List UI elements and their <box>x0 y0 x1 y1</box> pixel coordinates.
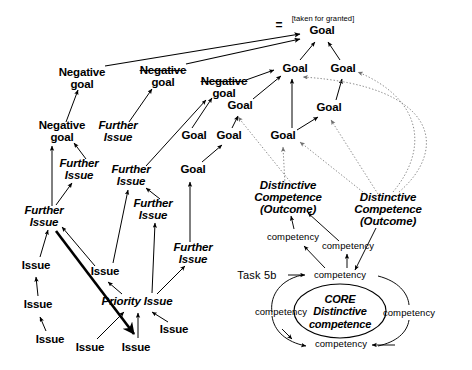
edge-dc1-midupper <box>238 117 292 184</box>
edge-neg2-goaltop <box>186 39 300 64</box>
diagram-canvas: = [taken for granted] Task 5b GoalGoalGo… <box>0 0 472 370</box>
edge-dc2-r1b-curve <box>358 72 415 192</box>
core-loop-right-bot <box>378 320 409 346</box>
edge-dc2-rightmid <box>331 120 378 194</box>
node-goal-low: Goal <box>181 164 206 176</box>
edge-compa-dc1 <box>291 216 294 229</box>
node-dc-outcome-1: DistinctiveCompetence(Outcome) <box>254 180 322 216</box>
node-label-line: Issue <box>111 176 150 188</box>
core-loop-left-arrow <box>282 329 292 339</box>
edge-l3-rightmid <box>297 117 318 130</box>
node-further-issue-3: FurtherIssue <box>111 164 150 188</box>
node-issue-4: Issue <box>91 266 120 278</box>
node-label-line: Distinctive <box>309 305 371 317</box>
node-label-line: competency <box>314 270 366 280</box>
node-label-line: Issue <box>36 334 65 346</box>
edge-issue2-issue1 <box>36 277 38 296</box>
node-label-line: Issue <box>173 254 212 266</box>
node-issue-3: Issue <box>36 334 65 346</box>
edge-neg4-neg1 <box>66 90 78 122</box>
node-goal-r1b: Goal <box>331 63 356 75</box>
node-competency-a: competency <box>267 232 319 242</box>
core-loop-right-top <box>378 276 409 305</box>
node-goal-top: Goal <box>310 25 335 37</box>
node-issue-6: Issue <box>122 342 151 354</box>
edge-fi5-issue6-thick <box>56 231 134 334</box>
node-issue-1: Issue <box>22 260 51 272</box>
node-competency-left: competency <box>255 307 307 317</box>
task-label: Task 5b <box>237 270 276 281</box>
edge-fi5-fi2 <box>56 183 72 205</box>
node-neg-goal-3: Negativegoal <box>201 76 248 100</box>
node-label-line: Issue <box>122 342 151 354</box>
edge-rightmid-r1b <box>336 79 342 100</box>
node-label-line: goal <box>201 88 248 100</box>
edge-issue5-priority <box>97 312 124 339</box>
node-label-line: Goal <box>271 130 296 142</box>
node-label-line: competency <box>315 339 367 349</box>
node-neg-goal-1: Negativegoal <box>59 67 106 91</box>
edge-priority-issue4 <box>108 282 122 294</box>
node-label-line: Issue <box>59 170 98 182</box>
node-further-issue-1: FurtherIssue <box>98 120 137 144</box>
node-issue-2: Issue <box>24 299 53 311</box>
node-goal-r1a: Goal <box>283 63 308 75</box>
edge-issue7-priority <box>152 312 168 322</box>
node-label-line: Issue <box>22 260 51 272</box>
node-label-line: competency <box>322 241 374 251</box>
node-label-line: CORE <box>309 293 371 305</box>
node-neg-goal-4: Negativegoal <box>39 120 86 144</box>
node-issue-5: Issue <box>76 342 105 354</box>
edge-l2-midupper <box>232 116 238 128</box>
edge-l1-neg3 <box>192 98 212 128</box>
edge-issue4-fi5 <box>62 227 95 266</box>
node-further-issue-5: FurtherIssue <box>24 205 63 229</box>
node-goal-l2: Goal <box>217 130 242 142</box>
edge-issue4-fi3 <box>113 190 128 263</box>
edge-priority-fi4 <box>152 223 155 293</box>
node-label-line: goal <box>59 79 106 91</box>
edge-r1a-goaltop <box>300 42 315 60</box>
node-label-line: Issue <box>24 299 53 311</box>
node-label-line: Goal <box>228 100 253 112</box>
node-label-line: (Outcome) <box>254 204 322 216</box>
node-further-issue-4: FurtherIssue <box>133 198 172 222</box>
core-loop-left-bot <box>272 316 306 346</box>
node-competency-b: competency <box>322 241 374 251</box>
node-issue-7: Issue <box>160 324 189 336</box>
node-label-line: Issue <box>133 210 172 222</box>
edge-midupper-r1a <box>253 76 281 99</box>
node-label-line: Issue <box>91 266 120 278</box>
edge-fi1-neg2 <box>129 89 152 122</box>
node-label-line: Issue <box>98 132 137 144</box>
edge-neg1-goaltop <box>105 34 300 66</box>
edge-r1b-goaltop <box>328 42 340 60</box>
node-competency-top: competency <box>314 270 366 280</box>
node-priority-issue: Priority Issue <box>102 296 173 308</box>
node-goal-l1: Goal <box>182 130 207 142</box>
node-label-line: goal <box>39 132 86 144</box>
node-dc-outcome-2: DistinctiveCompetence(Outcome) <box>354 192 422 228</box>
node-label-line: competency <box>267 232 319 242</box>
node-competency-right: competency <box>383 308 435 318</box>
node-label-line: Issue <box>24 217 63 229</box>
node-label-line: Goal <box>317 102 342 114</box>
edge-neg3-r1a <box>246 70 274 80</box>
edge-group-long-negatives <box>105 34 300 66</box>
node-label-line: Goal <box>310 25 335 37</box>
edge-issue3-issue2 <box>40 317 46 331</box>
node-goal-l3: Goal <box>271 130 296 142</box>
node-label-line: Goal <box>283 63 308 75</box>
node-competency-bot: competency <box>315 339 367 349</box>
node-label-line: Goal <box>217 130 242 142</box>
node-core-dc: COREDistinctivecompetence <box>309 293 371 330</box>
node-label-line: competence <box>309 317 371 329</box>
node-label-line: Priority Issue <box>102 296 173 308</box>
edge-priority-fi6 <box>157 266 185 294</box>
node-label-line: Issue <box>76 342 105 354</box>
node-further-issue-6: FurtherIssue <box>173 242 212 266</box>
node-label-line: Goal <box>181 164 206 176</box>
taken-for-granted-tag: [taken for granted] <box>292 15 355 23</box>
edge-group-dotted-competence <box>238 72 426 196</box>
node-goal-mid-upper: Goal <box>228 100 253 112</box>
